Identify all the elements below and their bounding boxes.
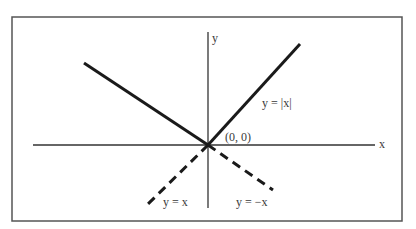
y-axis-label: y: [212, 31, 218, 45]
figure-frame: [12, 17, 402, 221]
y-equals-neg-x-label: y = −x: [236, 195, 268, 209]
abs-function-label: y = |x|: [262, 96, 292, 110]
origin-point: [206, 143, 210, 147]
abs-right-branch: [208, 44, 300, 145]
y-equals-neg-x-dashed-line: [208, 145, 273, 190]
origin-label: (0, 0): [225, 130, 251, 144]
abs-left-branch: [84, 63, 208, 145]
y-equals-x-label: y = x: [163, 195, 188, 209]
x-axis-label: x: [379, 137, 385, 151]
absolute-value-graph: y x y = |x| (0, 0) y = x y = −x: [0, 0, 416, 229]
